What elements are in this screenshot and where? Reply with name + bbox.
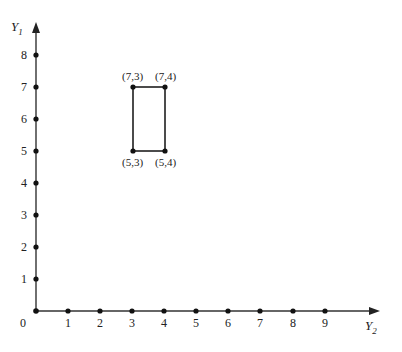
svg-text:2: 2 [21, 240, 27, 254]
lattice-diagram: Y1 Y2 0 1 2 3 4 5 6 7 8 9 1 2 3 4 5 6 7 … [0, 0, 402, 352]
svg-text:6: 6 [21, 112, 27, 126]
svg-text:9: 9 [322, 316, 328, 330]
svg-text:8: 8 [21, 48, 27, 62]
y-axis-label: Y1 [11, 19, 23, 37]
origin-label: 0 [20, 316, 26, 330]
rectangle: (7,3) (7,4) (5,3) (5,4) [122, 70, 176, 169]
x-axis-arrow-icon [369, 307, 380, 315]
svg-text:3: 3 [129, 316, 135, 330]
x-axis-label: Y2 [365, 318, 377, 336]
svg-text:1: 1 [65, 316, 71, 330]
corner-5-4 [162, 148, 167, 153]
svg-text:7: 7 [21, 80, 27, 94]
label-5-4: (5,4) [155, 156, 176, 169]
label-7-3: (7,3) [122, 70, 143, 83]
svg-text:4: 4 [21, 176, 27, 190]
corner-5-3 [130, 148, 135, 153]
svg-text:4: 4 [161, 316, 167, 330]
label-7-4: (7,4) [155, 70, 176, 83]
svg-text:8: 8 [290, 316, 296, 330]
svg-text:2: 2 [97, 316, 103, 330]
svg-text:6: 6 [225, 316, 231, 330]
corner-7-4 [162, 84, 167, 89]
label-5-3: (5,3) [122, 156, 143, 169]
svg-text:3: 3 [21, 208, 27, 222]
corner-7-3 [130, 84, 135, 89]
origin-point [33, 308, 39, 314]
svg-text:5: 5 [21, 144, 27, 158]
svg-text:5: 5 [193, 316, 199, 330]
y-axis-arrow-icon [32, 22, 40, 33]
svg-text:7: 7 [257, 316, 263, 330]
svg-text:1: 1 [21, 272, 27, 286]
